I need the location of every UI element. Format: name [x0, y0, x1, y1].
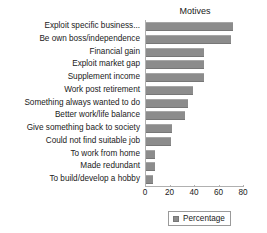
bar-percentage: [146, 60, 204, 69]
bar-percentage: [146, 22, 233, 31]
category-label: Could not find suitable job: [46, 135, 140, 147]
category-label: To build/develop a hobby: [49, 173, 140, 185]
bar-percentage: [146, 175, 153, 184]
bar-percentage: [146, 99, 188, 108]
x-tick-label: 80: [231, 187, 255, 199]
chart-figure: Motives Exploit specific business...Be o…: [0, 0, 267, 233]
category-label: Something always wanted to do: [24, 97, 140, 109]
x-tick-label: 0: [133, 187, 157, 199]
bar-percentage: [146, 48, 204, 57]
bar-percentage: [146, 35, 231, 44]
x-tick-label: 40: [182, 187, 206, 199]
category-label: Exploit specific business...: [44, 20, 140, 32]
legend-swatch-percentage: [173, 216, 179, 222]
bar-percentage: [146, 124, 172, 133]
category-label: Supplement income: [68, 71, 140, 83]
category-label: Give something back to society: [27, 122, 140, 134]
category-label: To work from home: [70, 148, 140, 160]
x-tick-label: 20: [158, 187, 182, 199]
chart-legend[interactable]: Percentage: [168, 211, 231, 226]
bar-percentage: [146, 86, 193, 95]
bar-percentage: [146, 111, 185, 120]
y-axis-category-labels: Exploit specific business...Be own boss/…: [0, 20, 143, 186]
plot-area: [145, 20, 243, 186]
chart-title: Motives: [145, 5, 245, 17]
category-label: Be own boss/independence: [39, 33, 140, 45]
category-label: Financial gain: [89, 46, 140, 58]
x-axis-tick-labels: 020406080: [0, 187, 267, 201]
category-label: Made redundant: [80, 160, 140, 172]
legend-label-percentage: Percentage: [183, 213, 225, 224]
x-tick-label: 60: [207, 187, 231, 199]
bar-percentage: [146, 73, 204, 82]
bar-percentage: [146, 162, 155, 171]
bar-percentage: [146, 137, 171, 146]
category-label: Better work/life balance: [55, 109, 140, 121]
category-label: Exploit market gap: [72, 58, 140, 70]
bar-percentage: [146, 150, 155, 159]
category-label: Work post retirement: [64, 84, 140, 96]
